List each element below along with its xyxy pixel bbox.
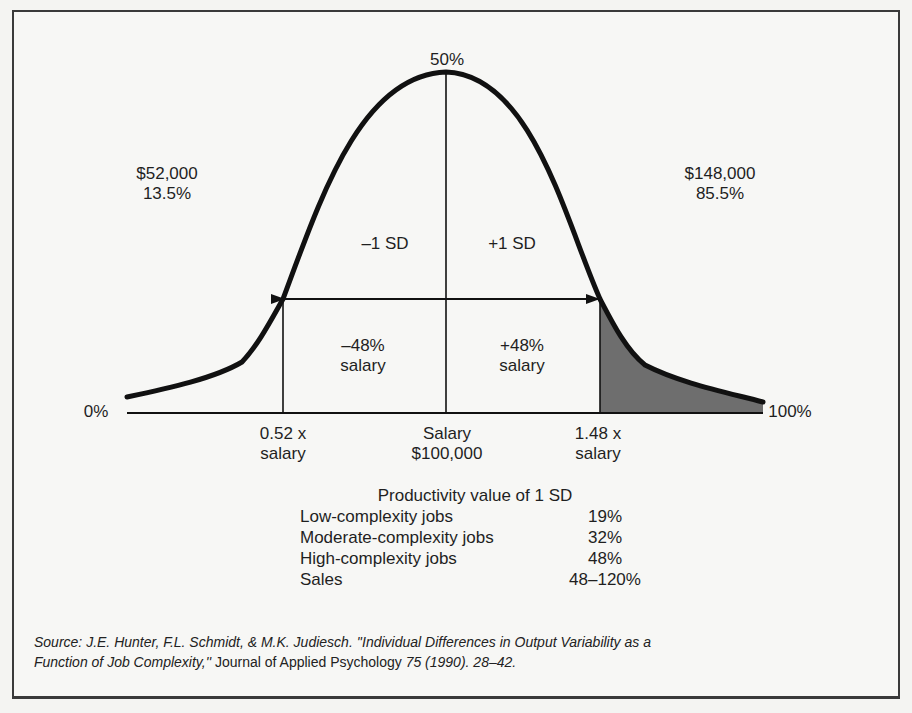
table-row-value: 48–120%: [550, 569, 660, 590]
x-marker-plus-sd-line1: 1.48 x: [563, 424, 633, 444]
table-row-category: High-complexity jobs: [300, 548, 550, 569]
plus-pct-sub: salary: [481, 356, 563, 376]
left-callout-value: $52,000: [118, 164, 216, 184]
minus-pct-sub: salary: [322, 356, 404, 376]
table-row-category: Low-complexity jobs: [300, 506, 550, 527]
table-row: Low-complexity jobs 19%: [300, 506, 660, 527]
table-row: Moderate-complexity jobs 32%: [300, 527, 660, 548]
minus-pct-label: –48% salary: [322, 336, 404, 376]
left-baseline-label: 0%: [78, 402, 114, 422]
table-row-value: 32%: [550, 527, 660, 548]
right-callout-value: $148,000: [666, 164, 774, 184]
x-marker-mean: Salary $100,000: [401, 424, 493, 464]
left-callout-percentile: 13.5%: [118, 184, 216, 204]
source-line-2: Function of Job Complexity,'' Journal of…: [34, 652, 884, 672]
x-marker-minus-sd-line1: 0.52 x: [248, 424, 318, 444]
x-marker-mean-line2: $100,000: [401, 444, 493, 464]
x-marker-plus-sd-line2: salary: [563, 444, 633, 464]
table-row: High-complexity jobs 48%: [300, 548, 660, 569]
source-citation: Source: J.E. Hunter, F.L. Schmidt, & M.K…: [34, 632, 884, 672]
x-marker-minus-sd-line2: salary: [248, 444, 318, 464]
x-marker-minus-sd: 0.52 x salary: [248, 424, 318, 464]
source-volume: 75 (1990). 28–42.: [406, 654, 517, 670]
plus-pct-label: +48% salary: [481, 336, 563, 376]
x-marker-plus-sd: 1.48 x salary: [563, 424, 633, 464]
left-callout: $52,000 13.5%: [118, 164, 216, 204]
table-row-category: Moderate-complexity jobs: [300, 527, 550, 548]
right-callout: $148,000 85.5%: [666, 164, 774, 204]
table-row-value: 48%: [550, 548, 660, 569]
table-row: Sales 48–120%: [300, 569, 660, 590]
bell-curve: [127, 72, 763, 402]
plus-pct-value: +48%: [481, 336, 563, 356]
minus-pct-value: –48%: [322, 336, 404, 356]
productivity-table: Productivity value of 1 SD Low-complexit…: [300, 485, 660, 590]
minus-sd-label: –1 SD: [345, 234, 425, 254]
source-line-1: Source: J.E. Hunter, F.L. Schmidt, & M.K…: [34, 632, 884, 652]
table-row-category: Sales: [300, 569, 550, 590]
right-callout-percentile: 85.5%: [666, 184, 774, 204]
normal-distribution-diagram: [0, 0, 912, 713]
productivity-table-title: Productivity value of 1 SD: [290, 485, 660, 506]
plus-sd-label: +1 SD: [472, 234, 552, 254]
x-marker-mean-line1: Salary: [401, 424, 493, 444]
right-baseline-label: 100%: [766, 402, 814, 422]
source-title-end: Function of Job Complexity,'': [34, 654, 211, 670]
table-row-value: 19%: [550, 506, 660, 527]
source-journal: Journal of Applied Psychology: [211, 654, 406, 670]
peak-label: 50%: [424, 50, 470, 70]
